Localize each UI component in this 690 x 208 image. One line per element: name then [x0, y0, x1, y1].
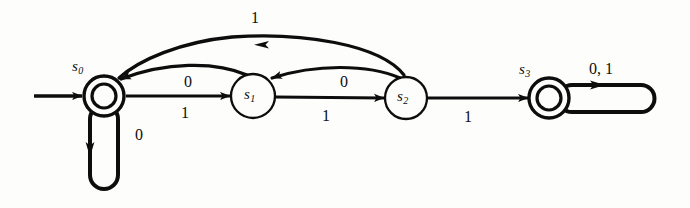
edge-label-s3-self-loop: 0, 1 — [589, 60, 613, 78]
transition-s0-self-loop — [86, 105, 118, 189]
transition-s1-s2 — [275, 97, 384, 98]
edge-label-s1-s2: 1 — [322, 107, 330, 125]
state-label-s3: s3 — [519, 61, 530, 79]
edge-arc-s2-s0 — [119, 36, 404, 78]
state-label-s0: s0 — [72, 58, 83, 76]
edge-label-s0-s1: 1 — [181, 104, 189, 122]
edge-arc-s2-s0-arrowhead — [254, 41, 269, 48]
transition-s2-s0 — [119, 36, 404, 78]
state-s3-inner-circle — [537, 86, 561, 110]
edge-label-s2-s3: 1 — [464, 108, 472, 126]
fsm-canvas — [0, 0, 690, 208]
edge-label-s2-s0: 1 — [251, 9, 259, 27]
edge-label-s2-s1: 0 — [340, 73, 348, 91]
edge-line-s1-s2 — [275, 97, 384, 98]
state-node-s0[interactable] — [84, 76, 124, 116]
edge-label-s1-s0: 0 — [184, 73, 192, 91]
state-node-s3[interactable] — [529, 78, 569, 118]
transition-s3-self-loop — [559, 81, 655, 112]
edge-arc-s2-s1 — [272, 68, 400, 79]
transition-s2-s1 — [272, 68, 400, 79]
self-loop-path-s3 — [559, 85, 655, 112]
state-machine-diagram: s0 s1 s2 s3 1 1 1 0 0 1 0 0, 1 — [0, 0, 690, 208]
state-s0-inner-circle — [92, 84, 116, 108]
state-label-s1: s1 — [244, 86, 255, 104]
state-label-s2: s2 — [397, 88, 408, 106]
edge-label-s0-self-loop: 0 — [135, 126, 143, 144]
